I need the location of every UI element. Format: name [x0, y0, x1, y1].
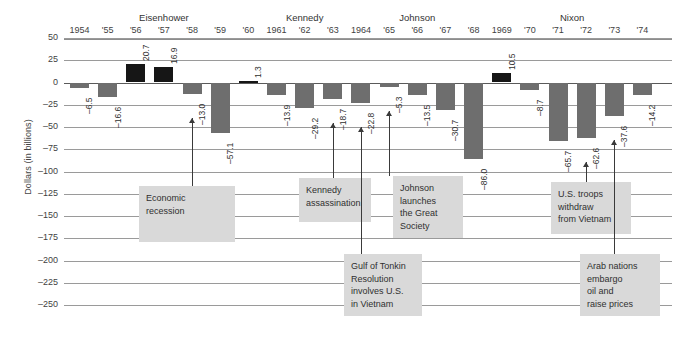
x-axis-year-label: '74: [622, 25, 662, 35]
annotation-callout: Gulf of Tonkin Resolution involves U.S. …: [344, 254, 422, 316]
y-axis-tick: –75: [20, 143, 58, 153]
bar: [154, 67, 173, 82]
annotation-callout: Johnson launches the Great Society: [393, 176, 463, 238]
bar: [436, 83, 455, 110]
bar: [351, 83, 370, 103]
annotation-leader-line: [361, 127, 362, 254]
y-axis-tick: 25: [20, 54, 58, 64]
chart-root: Dollars (in billions) 1954'55'56'57'58'5…: [0, 0, 685, 338]
y-axis-tick: 0: [20, 77, 58, 87]
bar-value-label: 16.9: [169, 48, 179, 65]
bar: [380, 83, 399, 88]
y-axis-tick: –25: [20, 99, 58, 109]
bar-value-label: –13.0: [197, 104, 207, 125]
bar-value-label: –6.5: [84, 98, 94, 115]
bar-value-label: –86.0: [479, 169, 489, 190]
annotation-callout: Arab nations embargo oil and raise price…: [580, 254, 660, 316]
gridline: [64, 60, 672, 61]
x-axis-header: 1954'55'56'57'58'59'601961'62'631964'65'…: [64, 12, 672, 40]
bar: [70, 83, 89, 89]
bar: [267, 83, 286, 95]
bar-value-label: –37.6: [619, 126, 629, 147]
president-group-label: Johnson: [357, 12, 477, 23]
gridline: [64, 172, 672, 173]
y-axis-tick: –175: [20, 232, 58, 242]
bar: [549, 83, 568, 141]
annotation-arrowhead: [611, 140, 617, 145]
bar: [577, 83, 596, 139]
bar-value-label: –65.7: [563, 151, 573, 172]
bar: [295, 83, 314, 109]
bar: [464, 83, 483, 160]
annotation-callout: U.S. troops withdraw from Vietnam: [551, 182, 631, 234]
y-axis-tick: –50: [20, 121, 58, 131]
annotation-leader-line: [614, 140, 615, 254]
y-axis-tick: –250: [20, 299, 58, 309]
bar-value-label: –57.1: [225, 143, 235, 164]
bar-value-label: –8.7: [535, 100, 545, 117]
y-axis-tick: –125: [20, 188, 58, 198]
bar: [492, 73, 511, 82]
y-axis-tick: –100: [20, 166, 58, 176]
president-group-label: Eisenhower: [104, 12, 224, 23]
y-axis-tick: 50: [20, 32, 58, 42]
bar-value-label: –16.6: [113, 107, 123, 128]
bar: [520, 83, 539, 91]
annotation-arrowhead: [583, 162, 589, 167]
annotation-leader-line: [389, 111, 390, 176]
y-axis-tick: –200: [20, 255, 58, 265]
bar-value-label: 10.5: [507, 54, 517, 71]
bar: [633, 83, 652, 96]
annotation-arrowhead: [386, 111, 392, 116]
annotation-arrowhead: [189, 118, 195, 123]
annotation-leader-line: [192, 118, 193, 186]
annotation-leader-line: [333, 123, 334, 178]
annotation-arrowhead: [330, 123, 336, 128]
bar-value-label: –29.2: [310, 118, 320, 139]
bar: [239, 81, 258, 83]
bar: [126, 64, 145, 82]
gridline: [64, 38, 672, 39]
bar: [605, 83, 624, 116]
bar-value-label: 20.7: [141, 45, 151, 62]
y-axis-tick: –150: [20, 210, 58, 220]
president-group-label: Kennedy: [245, 12, 365, 23]
bar-value-label: –13.5: [422, 104, 432, 125]
bar-value-label: –62.6: [591, 148, 601, 169]
bar: [211, 83, 230, 134]
bar: [183, 83, 202, 95]
bar-value-label: –18.7: [338, 109, 348, 130]
bar: [98, 83, 117, 98]
bar-value-label: –30.7: [450, 120, 460, 141]
president-group-label: Nixon: [512, 12, 632, 23]
bar: [323, 83, 342, 100]
bar-value-label: –5.3: [394, 97, 404, 114]
bar-value-label: 1.3: [253, 66, 263, 78]
bar-value-label: –22.8: [366, 113, 376, 134]
gridline: [64, 149, 672, 150]
y-axis-tick: –225: [20, 277, 58, 287]
bar-value-label: –14.2: [647, 105, 657, 126]
bar: [408, 83, 427, 95]
annotation-callout: Economic recession: [139, 186, 235, 242]
annotation-arrowhead: [358, 127, 364, 132]
bar-value-label: –13.9: [282, 105, 292, 126]
